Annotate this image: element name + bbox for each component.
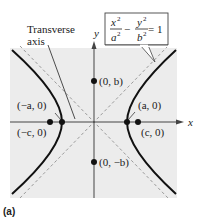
x-axis-label: x bbox=[187, 116, 193, 128]
neg-focus-label: (−c, 0) bbox=[17, 126, 47, 139]
hyperbola-diagram: x y Transverse axis (−a, 0) (−c, 0) (a, … bbox=[0, 0, 202, 221]
figure-caption: (a) bbox=[3, 206, 15, 217]
x-axis-arrow-icon bbox=[176, 120, 184, 125]
co-vertex-bottom-point bbox=[91, 159, 97, 165]
co-vertex-bottom-label: (0, −b) bbox=[99, 156, 129, 169]
pos-vertex-point bbox=[124, 119, 130, 125]
transverse-axis-label-line1: Transverse bbox=[27, 23, 75, 35]
eq-x-numerator: x bbox=[110, 16, 116, 28]
eq-y-exp: 2 bbox=[143, 15, 147, 23]
neg-vertex-point bbox=[59, 119, 65, 125]
eq-b-exp: 2 bbox=[143, 30, 147, 38]
transverse-axis-label-line2: axis bbox=[27, 35, 45, 47]
eq-x-exp: 2 bbox=[117, 15, 121, 23]
pos-focus-label: (c, 0) bbox=[141, 126, 165, 139]
eq-y-numerator: y bbox=[136, 16, 142, 28]
pos-focus-point bbox=[135, 119, 141, 125]
neg-focus-point bbox=[47, 119, 53, 125]
eq-minus: − bbox=[124, 23, 130, 35]
co-vertex-top-label: (0, b) bbox=[99, 75, 123, 88]
y-axis-arrow-icon bbox=[92, 41, 97, 49]
co-vertex-top-point bbox=[91, 78, 97, 84]
eq-a-exp: 2 bbox=[117, 30, 121, 38]
pos-vertex-label: (a, 0) bbox=[138, 99, 162, 112]
eq-rhs: = 1 bbox=[148, 23, 162, 35]
y-axis-label: y bbox=[93, 27, 99, 39]
neg-vertex-label: (−a, 0) bbox=[17, 99, 47, 112]
